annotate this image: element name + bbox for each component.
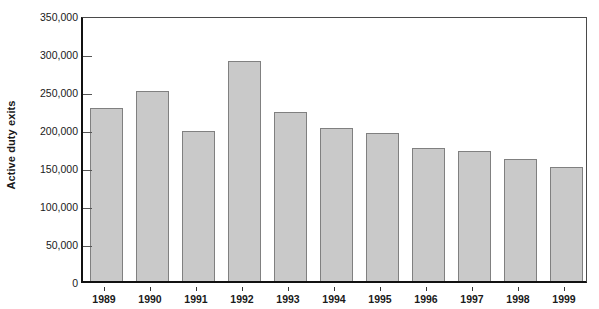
x-axis-tick-mark — [242, 287, 243, 291]
y-axis-tick-label: 50,000 — [20, 239, 78, 251]
x-axis-tick-label: 1989 — [92, 293, 115, 305]
bar — [228, 61, 261, 281]
bar — [136, 91, 169, 281]
x-axis-tick-label: 1995 — [368, 293, 391, 305]
x-axis-tick-mark — [104, 287, 105, 291]
bar — [458, 151, 491, 281]
x-axis-tick-label: 1990 — [138, 293, 161, 305]
x-axis-tick-label: 1993 — [276, 293, 299, 305]
y-axis-tick-label: 150,000 — [20, 163, 78, 175]
y-axis-tick-mark — [83, 132, 92, 133]
bars-layer — [83, 18, 586, 281]
y-axis-tick-label: 200,000 — [20, 125, 78, 137]
y-axis-tick-label: 350,000 — [20, 11, 78, 23]
x-axis-tick-mark — [564, 287, 565, 291]
plot-area — [81, 17, 587, 283]
bar-chart-figure: Active duty exits 050,000100,000150,0002… — [0, 0, 599, 309]
y-axis-tick-mark — [83, 246, 92, 247]
y-axis-tick-mark — [83, 170, 92, 171]
x-axis-tick-mark — [196, 287, 197, 291]
y-axis-title: Active duty exits — [0, 0, 22, 290]
bar — [90, 108, 123, 281]
y-axis-title-text: Active duty exits — [5, 100, 17, 189]
y-axis-tick-labels: 050,000100,000150,000200,000250,000300,0… — [20, 0, 78, 309]
bar — [504, 159, 537, 281]
x-axis-tick-mark — [380, 287, 381, 291]
x-axis-tick-mark — [426, 287, 427, 291]
y-axis-tick-label: 250,000 — [20, 87, 78, 99]
bar — [412, 148, 445, 281]
x-axis-tick-label: 1992 — [230, 293, 253, 305]
bar — [550, 167, 583, 281]
x-axis-tick-label: 1997 — [460, 293, 483, 305]
x-axis-tick-label: 1999 — [552, 293, 575, 305]
x-axis-tick-mark — [518, 287, 519, 291]
y-axis-tick-label: 0 — [20, 277, 78, 289]
x-axis-tick-mark — [150, 287, 151, 291]
x-axis-tick-label: 1996 — [414, 293, 437, 305]
x-axis-tick-label: 1994 — [322, 293, 345, 305]
y-axis-tick-mark — [83, 94, 92, 95]
bar — [274, 112, 307, 281]
bar — [182, 131, 215, 281]
x-axis-tick-mark — [334, 287, 335, 291]
bar — [366, 133, 399, 281]
y-axis-tick-label: 300,000 — [20, 49, 78, 61]
x-axis-tick-mark — [288, 287, 289, 291]
y-axis-tick-label: 100,000 — [20, 201, 78, 213]
x-axis-tick-label: 1998 — [506, 293, 529, 305]
x-axis-tick-mark — [472, 287, 473, 291]
y-axis-tick-mark — [83, 56, 92, 57]
bar — [320, 128, 353, 281]
x-axis-tick-labels: 1989199019911992199319941995199619971998… — [81, 287, 587, 307]
y-axis-tick-mark — [83, 208, 92, 209]
x-axis-tick-label: 1991 — [184, 293, 207, 305]
